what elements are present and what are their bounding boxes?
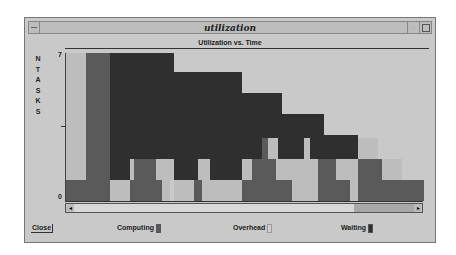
computing-segment (252, 159, 276, 180)
computing-segment (86, 53, 110, 180)
computing-segment (130, 180, 162, 201)
overhead-segment (66, 53, 86, 180)
overhead-segment (350, 180, 358, 201)
overhead-segment (198, 159, 210, 180)
legend-overhead: Overhead (233, 224, 272, 233)
chart-title: Utilization vs. Time (25, 39, 435, 46)
title-bar[interactable]: utilization · (28, 21, 432, 34)
overhead-segment (174, 180, 194, 201)
horizontal-scrollbar[interactable]: ◂ ▸ (65, 203, 423, 213)
computing-segment (358, 159, 382, 180)
legend-waiting: Waiting (341, 224, 373, 233)
utilization-window: utilization · Utilization vs. Time N T A… (24, 17, 436, 243)
overhead-segment (110, 180, 130, 201)
overhead-segment (202, 180, 242, 201)
scroll-thumb[interactable] (354, 204, 414, 212)
maximize-button[interactable] (419, 22, 431, 33)
title-divider (65, 48, 429, 49)
overhead-segment (162, 180, 170, 201)
scroll-right-arrow-icon[interactable]: ▸ (414, 204, 422, 212)
computing-segment (134, 159, 156, 180)
waiting-segment (324, 135, 358, 158)
overhead-segment (156, 159, 174, 180)
waiting-swatch (368, 224, 373, 233)
overhead-segment (358, 138, 378, 159)
overhead-segment (304, 138, 310, 159)
x-axis (65, 201, 423, 202)
overhead-segment (292, 180, 318, 201)
maximize-icon (422, 24, 430, 32)
computing-segment (66, 180, 110, 201)
computing-segment (318, 180, 350, 201)
overhead-segment (382, 159, 402, 180)
y-tick-top: 7 (58, 51, 62, 58)
waiting-segment (282, 114, 324, 158)
computing-segment (242, 180, 292, 201)
overhead-swatch (267, 224, 272, 233)
minimize-button[interactable]: · (407, 22, 419, 33)
computing-segment (358, 180, 424, 201)
overhead-segment (276, 159, 318, 180)
overhead-segment (242, 159, 252, 180)
legend-computing: Computing (117, 224, 161, 233)
computing-segment (194, 180, 202, 201)
overhead-segment (336, 159, 358, 180)
computing-swatch (156, 224, 161, 233)
plot-area (65, 53, 423, 201)
overhead-segment (268, 138, 278, 159)
scroll-left-arrow-icon[interactable]: ◂ (66, 204, 74, 212)
computing-segment (318, 159, 336, 180)
close-button[interactable]: Close (31, 224, 53, 233)
y-axis-label: N T A S K S (34, 54, 42, 117)
window-title: utilization (29, 22, 431, 34)
y-tick-bottom: 0 (58, 193, 62, 200)
overhead-segment (130, 159, 134, 180)
